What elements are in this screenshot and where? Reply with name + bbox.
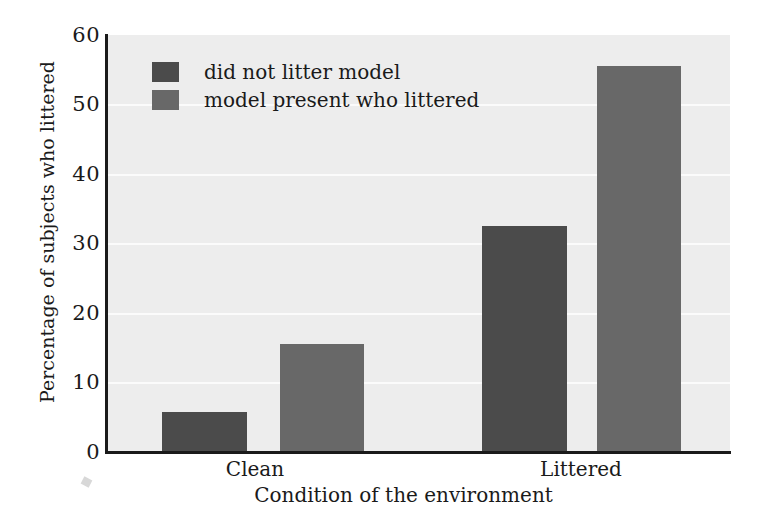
bar-clean-did-not-litter-model	[162, 412, 247, 452]
legend-entry-did-not-litter-model: did not litter model	[152, 58, 479, 86]
x-axis-line	[105, 451, 731, 454]
y-axis-line	[105, 34, 108, 453]
bar-littered-did-not-litter-model	[482, 226, 567, 452]
y-axis-title: Percentage of subjects who littered	[37, 52, 57, 412]
legend-entry-model-present-who-littered: model present who littered	[152, 86, 479, 114]
legend-swatch-icon-series-1	[152, 90, 179, 110]
bar-littered-model-present-who-littered	[597, 66, 681, 452]
y-tick-label-0: 0	[40, 442, 100, 463]
x-axis-title: Condition of the environment	[0, 484, 763, 506]
bar-clean-model-present-who-littered	[280, 344, 364, 452]
legend-label-series-0: did not litter model	[204, 61, 400, 83]
y-tick-label-60: 60	[40, 25, 100, 46]
y-axis-tick-labels: 60 50 40 30 20 10 0	[20, 0, 100, 518]
x-tick-label-clean: Clean	[195, 458, 315, 480]
x-axis-title-text: Condition of the environment	[254, 484, 553, 506]
legend-swatch-icon-series-0	[152, 62, 179, 82]
legend: did not litter model model present who l…	[152, 58, 479, 114]
legend-label-series-1: model present who littered	[204, 89, 479, 111]
bar-chart-figure: 60 50 40 30 20 10 0 Clean Littered Perce…	[0, 0, 763, 518]
x-tick-label-littered: Littered	[521, 458, 641, 480]
